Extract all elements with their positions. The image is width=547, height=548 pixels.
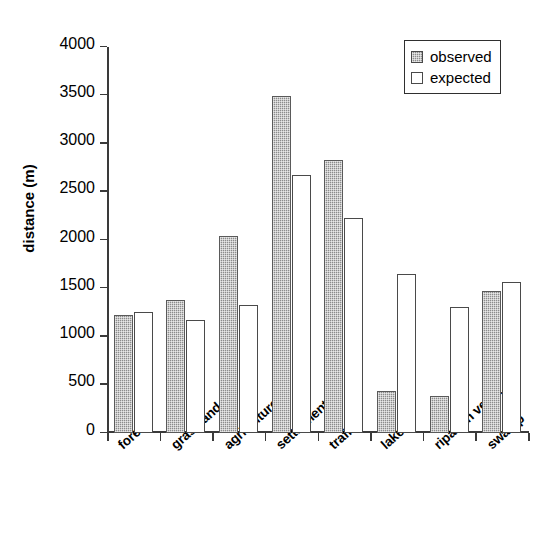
- y-tick-label: 1000: [35, 324, 95, 342]
- y-tick-label: 2000: [35, 228, 95, 246]
- plot-area: 05001000150020002500300035004000: [107, 47, 528, 433]
- legend-label-observed: observed: [430, 48, 492, 65]
- legend-label-expected: expected: [430, 69, 491, 86]
- x-tick: [423, 433, 425, 441]
- legend: observed expected: [404, 40, 501, 94]
- x-tick: [160, 433, 162, 441]
- y-tick: 1500: [100, 287, 107, 289]
- bar-swamp-observed: [482, 291, 501, 433]
- x-tick: [265, 433, 267, 441]
- y-tick: 1000: [100, 335, 107, 337]
- y-axis-line: [107, 47, 109, 434]
- legend-item-expected[interactable]: expected: [411, 67, 492, 88]
- x-tick: [370, 433, 372, 441]
- x-tick: [318, 433, 320, 441]
- y-tick: 3000: [100, 142, 107, 144]
- x-tick: [475, 433, 477, 441]
- bar-traffic-expected: [344, 218, 363, 433]
- legend-swatch-observed-icon: [411, 51, 423, 63]
- bar-riparian-veget--observed: [430, 396, 449, 433]
- y-tick-label: 3500: [35, 83, 95, 101]
- y-tick: 2500: [100, 190, 107, 192]
- y-tick: 0: [100, 432, 107, 434]
- y-tick: 2000: [100, 239, 107, 241]
- bar-forest-expected: [134, 312, 153, 433]
- y-tick-label: 2500: [35, 179, 95, 197]
- x-tick: [528, 433, 530, 441]
- bar-grassland-observed: [166, 300, 185, 433]
- x-tick: [212, 433, 214, 441]
- bar-forest-observed: [114, 315, 133, 433]
- bar-agriculture-expected: [239, 305, 258, 433]
- y-tick: 500: [100, 383, 107, 385]
- bar-swamp-expected: [502, 282, 521, 434]
- bar-traffic-observed: [324, 160, 343, 433]
- bar-grassland-expected: [186, 320, 205, 433]
- legend-item-observed[interactable]: observed: [411, 46, 492, 67]
- bar-lake-observed: [377, 391, 396, 433]
- bar-riparian-veget--expected: [450, 307, 469, 433]
- y-tick-label: 0: [35, 421, 95, 439]
- y-tick-label: 1500: [35, 276, 95, 294]
- y-tick: 4000: [100, 46, 107, 48]
- bar-settlement-expected: [292, 175, 311, 433]
- y-axis-title: distance (m): [20, 129, 37, 289]
- x-tick: [107, 433, 109, 441]
- y-tick: 3500: [100, 94, 107, 96]
- bar-agriculture-observed: [219, 236, 238, 433]
- legend-swatch-expected-icon: [411, 72, 423, 84]
- y-tick-label: 500: [35, 372, 95, 390]
- bar-chart-figure: distance (m) 050010001500200025003000350…: [0, 0, 547, 548]
- bar-settlement-observed: [272, 96, 291, 433]
- bar-lake-expected: [397, 274, 416, 433]
- y-tick-label: 4000: [35, 35, 95, 53]
- y-tick-label: 3000: [35, 131, 95, 149]
